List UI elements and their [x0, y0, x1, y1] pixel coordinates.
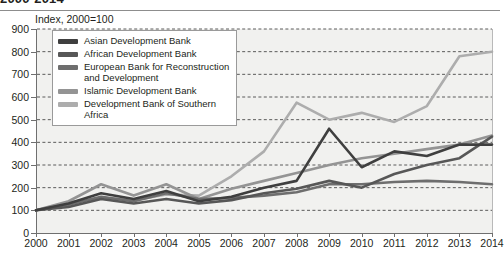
legend-swatch-development-bank-of-southern-africa [58, 102, 78, 107]
legend-swatch-european-bank-for-reconstruction-and-development [58, 65, 78, 70]
legend-item: Development Bank of Southern Africa [58, 98, 230, 120]
legend-label: Asian Development Bank [84, 35, 191, 46]
legend-label: Islamic Development Bank [84, 85, 196, 96]
legend-swatch-african-development-bank [58, 52, 78, 57]
legend-item: European Bank for Reconstruction and Dev… [58, 61, 230, 83]
legend-swatch-asian-development-bank [58, 39, 78, 44]
legend-label: African Development Bank [84, 48, 196, 59]
series-line [36, 137, 492, 211]
legend-item: African Development Bank [58, 48, 230, 59]
legend-item: Islamic Development Bank [58, 85, 230, 96]
legend-label: European Bank for Reconstruction and Dev… [84, 61, 230, 83]
chart-legend: Asian Development Bank African Developme… [52, 30, 237, 126]
legend-swatch-islamic-development-bank [58, 89, 78, 94]
legend-label: Development Bank of Southern Africa [84, 98, 230, 120]
legend-item: Asian Development Bank [58, 35, 230, 46]
